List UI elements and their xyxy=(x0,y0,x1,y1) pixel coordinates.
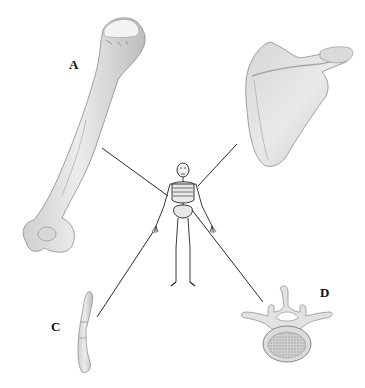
scapula-bone xyxy=(246,42,353,166)
leader-line-phalanges xyxy=(97,232,153,317)
label-c: C xyxy=(51,320,60,333)
humerus-bone xyxy=(23,18,145,252)
label-a: A xyxy=(69,58,78,71)
phalanges-bone xyxy=(78,292,93,373)
skeleton-figure xyxy=(152,163,216,286)
bone-diagram: A C D xyxy=(0,0,365,388)
leader-line-scapula xyxy=(198,144,237,186)
leader-line-humerus xyxy=(102,148,168,196)
vertebra-bone xyxy=(242,286,333,362)
leader-line-vertebra xyxy=(192,210,263,302)
label-d: D xyxy=(320,286,329,299)
